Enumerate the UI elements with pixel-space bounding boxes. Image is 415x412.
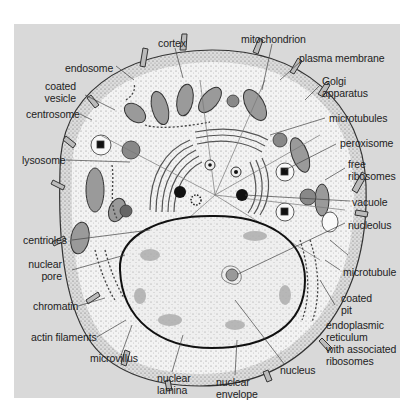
label-nuclear-lamina: nuclear lamina (157, 372, 191, 396)
label-lysosome: lysosome (22, 154, 66, 166)
label-centrioles: centrioles (23, 234, 67, 246)
label-nucleus: nucleus (280, 364, 316, 376)
label-microtubule: microtubule (343, 266, 396, 278)
label-golgi-apparatus: Golgi apparatus (322, 75, 368, 99)
label-chromatin: chromatin (33, 300, 78, 312)
label-vacuole: vacuole (352, 196, 388, 208)
label-endosome: endosome (65, 62, 113, 74)
label-microtubules: microtubules (329, 112, 387, 124)
label-cortex: cortex (158, 37, 186, 49)
label-peroxisome: peroxisome (340, 137, 393, 149)
label-nuclear-envelope: nuclear envelope (216, 376, 258, 400)
label-nuclear-pore: nuclear pore (22, 258, 62, 282)
label-endoplasmic-reticulum: endoplasmic reticulum with associated ri… (326, 319, 396, 367)
label-actin-filaments: actin filaments (31, 331, 97, 343)
label-coated-pit: coated pit (341, 292, 372, 316)
label-nucleolus: nucleolus (348, 219, 391, 231)
label-mitochondrion: mitochondrion (241, 33, 306, 45)
nucleus (120, 216, 305, 348)
label-microvillus: microvillus (90, 352, 138, 364)
label-plasma-membrane: plasma membrane (299, 52, 384, 64)
label-free-ribosomes: free ribosomes (348, 158, 396, 182)
label-centrosome: centrosome (26, 108, 80, 120)
label-coated-vesicle: coated vesicle (36, 80, 76, 104)
